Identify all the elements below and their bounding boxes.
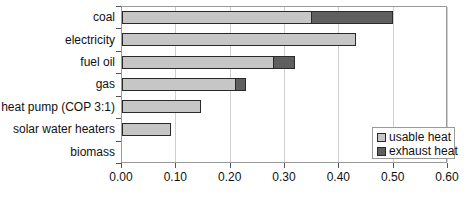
y-axis-tick	[116, 6, 121, 7]
y-axis-tick	[116, 73, 121, 74]
usable-heat-swatch-icon	[377, 133, 386, 142]
bar-row	[122, 56, 295, 69]
bar-segment-usable-heat	[122, 33, 356, 46]
bar-row	[122, 11, 393, 24]
x-axis-tick	[338, 163, 339, 168]
bar-segment-exhaust-heat	[235, 78, 246, 91]
bar-segment-usable-heat	[122, 100, 201, 113]
y-axis-tick	[116, 141, 121, 142]
x-tick-label: 0.20	[208, 170, 252, 184]
bar-row	[122, 123, 171, 136]
legend-label-usable-heat: usable heat	[389, 131, 451, 143]
x-axis-tick	[175, 163, 176, 168]
x-axis-tick	[230, 163, 231, 168]
stacked-bar-chart: coalelectricityfuel oilgasheat pump (COP…	[0, 0, 473, 197]
x-tick-label: 0.40	[316, 170, 360, 184]
category-label: electricity	[0, 28, 115, 50]
bar-row	[122, 33, 356, 46]
x-tick-label: 0.30	[262, 170, 306, 184]
bar-segment-usable-heat	[122, 123, 171, 136]
legend-entry-usable-heat: usable heat	[377, 130, 454, 144]
x-axis-tick	[393, 163, 394, 168]
bar-segment-usable-heat	[122, 56, 274, 69]
y-axis-tick	[116, 96, 121, 97]
x-axis-tick	[284, 163, 285, 168]
category-label: fuel oil	[0, 51, 115, 73]
category-label: heat pump (COP 3:1)	[0, 96, 115, 118]
legend-entry-exhaust-heat: exhaust heat	[377, 144, 454, 158]
y-axis-tick	[116, 28, 121, 29]
bar-row	[122, 100, 201, 113]
x-axis-tick	[121, 163, 122, 168]
y-axis-tick	[116, 118, 121, 119]
x-axis-tick	[447, 163, 448, 168]
category-label: coal	[0, 6, 115, 28]
x-tick-label: 0.50	[371, 170, 415, 184]
legend-label-exhaust-heat: exhaust heat	[389, 145, 458, 157]
exhaust-heat-swatch-icon	[377, 147, 386, 156]
x-tick-label: 0.60	[425, 170, 469, 184]
category-label: solar water heaters	[0, 118, 115, 140]
bar-segment-usable-heat	[122, 78, 236, 91]
category-label: gas	[0, 73, 115, 95]
y-axis-tick	[116, 51, 121, 52]
bar-row	[122, 78, 246, 91]
x-tick-label: 0.10	[153, 170, 197, 184]
bar-segment-exhaust-heat	[311, 11, 393, 24]
bar-segment-exhaust-heat	[273, 56, 295, 69]
bar-segment-usable-heat	[122, 11, 312, 24]
category-label: biomass	[0, 141, 115, 163]
gridline	[284, 7, 285, 162]
legend: usable heat exhaust heat	[372, 127, 455, 159]
gridline	[338, 7, 339, 162]
x-tick-label: 0.00	[99, 170, 143, 184]
